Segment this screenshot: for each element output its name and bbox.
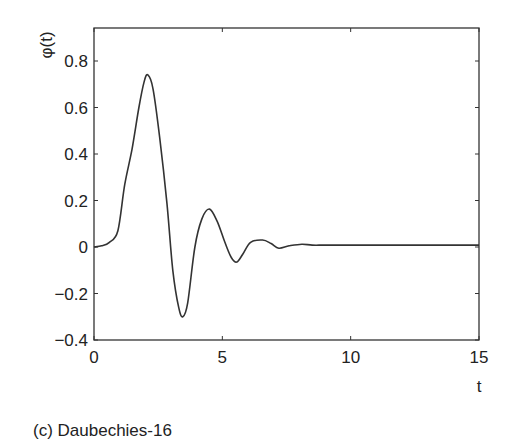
y-axis-label: φ(t) (37, 31, 56, 58)
y-tick-label: 0.4 (64, 145, 88, 164)
y-tick-labels: −0.4−0.200.20.40.60.8 (54, 52, 88, 350)
chart: 051015 −0.4−0.200.20.40.60.8 t φ(t) (0, 0, 513, 444)
y-tick-label: 0 (79, 238, 88, 257)
x-tick-labels: 051015 (89, 348, 488, 367)
x-tick-label: 0 (89, 348, 98, 367)
y-tick-label: −0.4 (54, 331, 88, 350)
plot-frame (94, 28, 479, 340)
x-tick-label: 10 (341, 348, 360, 367)
phi-curve-line (94, 75, 479, 317)
x-tick-label: 5 (218, 348, 227, 367)
y-tick-label: −0.2 (54, 285, 88, 304)
y-tick-label: 0.2 (64, 192, 88, 211)
y-tick-label: 0.8 (64, 52, 88, 71)
axis-ticks (94, 28, 479, 340)
x-tick-label: 15 (470, 348, 489, 367)
y-tick-label: 0.6 (64, 99, 88, 118)
x-axis-label: t (477, 377, 482, 396)
figure-caption: (c) Daubechies-16 (33, 421, 172, 441)
